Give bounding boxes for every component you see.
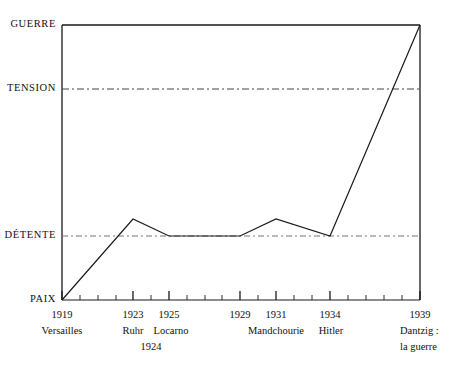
event-label-dantzig: Dantzig : <box>400 325 464 336</box>
event-label-locarno: Locarno <box>145 325 197 336</box>
tension-data-line <box>62 25 420 300</box>
y-axis-label-tension: TENSION <box>0 82 56 93</box>
x-tick-label-1919: 1919 <box>42 309 82 320</box>
event-label-versailles: Versailles <box>32 325 92 336</box>
event-label-1924: 1924 <box>131 341 171 352</box>
x-axis-minor-ticks <box>80 295 402 300</box>
event-label-hitler: Hitler <box>311 325 351 336</box>
x-tick-label-1929: 1929 <box>220 309 260 320</box>
x-tick-label-1931: 1931 <box>256 309 296 320</box>
event-label-la-guerre: la guerre <box>400 341 464 352</box>
event-label-mandchourie: Mandchourie <box>232 325 320 336</box>
x-tick-label-1923: 1923 <box>113 309 153 320</box>
tension-timeline-figure: GUERRE TENSION DÉTENTE PAIX 1919 1923 19… <box>0 0 467 370</box>
x-tick-label-1939: 1939 <box>400 309 440 320</box>
y-axis-label-guerre: GUERRE <box>0 18 56 29</box>
y-axis-label-detente: DÉTENTE <box>0 229 56 240</box>
y-axis-label-paix: PAIX <box>0 293 56 304</box>
x-tick-label-1934: 1934 <box>310 309 350 320</box>
x-tick-label-1925: 1925 <box>149 309 189 320</box>
